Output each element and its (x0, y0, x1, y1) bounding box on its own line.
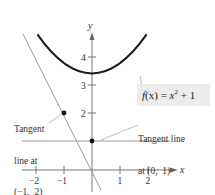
annotation-line: Tangent (14, 124, 44, 135)
x-tick-label: 1 (118, 176, 123, 186)
y-axis-label: y (87, 20, 93, 31)
annotation-tangent-0-1: Tangent line at (0, 1) (138, 113, 185, 195)
annotation-tangent-neg1-2: Tangent line at (−1, 2) (14, 103, 44, 195)
x-tick-label: −1 (57, 176, 67, 186)
point-neg1-2 (62, 111, 67, 116)
leader-line-left (49, 114, 62, 123)
annotation-line: Tangent line (138, 134, 185, 145)
point-0-1 (90, 139, 95, 144)
y-axis-arrow-icon (90, 32, 95, 40)
function-equals: = (158, 89, 170, 101)
y-tick-label: 2 (81, 109, 86, 119)
leader-line-right (101, 125, 138, 140)
y-tick-label: 4 (81, 53, 86, 63)
function-rest: + 1 (178, 89, 195, 101)
function-arg: (x) (145, 89, 158, 101)
annotation-line: at (0, 1) (138, 166, 185, 177)
parabola-tangent-figure: y x −2 −1 1 2 2 3 4 f(x) = x2 + 1 Tangen… (0, 0, 215, 195)
y-tick-label: 3 (81, 81, 86, 91)
function-label: f(x) = x2 + 1 (142, 88, 195, 101)
annotation-line: line at (14, 156, 44, 167)
annotation-line: (−1, 2) (14, 187, 44, 195)
